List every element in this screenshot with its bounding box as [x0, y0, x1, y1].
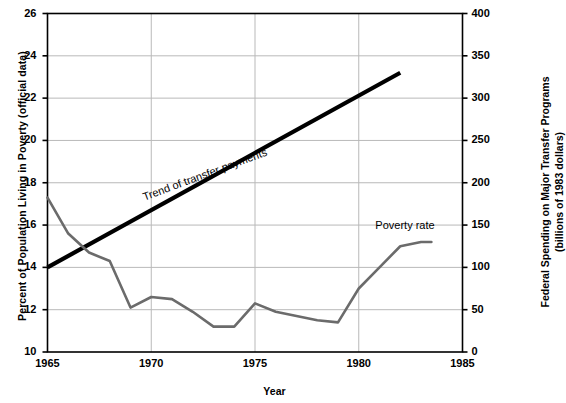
y-axis-right-tick-label: 200: [472, 176, 506, 188]
y-axis-right-tick-label: 50: [472, 303, 506, 315]
y-axis-left-tick-label: 16: [9, 218, 37, 230]
y-axis-right-tick-label: 300: [472, 91, 506, 103]
x-axis-tick-label: 1975: [233, 357, 277, 369]
y-axis-left-tick-label: 26: [9, 7, 37, 19]
x-axis-tick-label: 1985: [441, 357, 485, 369]
y-axis-right-title-line2: (billions of 1983 dollars): [552, 22, 566, 362]
x-axis-title: Year: [0, 385, 549, 397]
y-axis-right-tick-label: 100: [472, 260, 506, 272]
y-axis-right-title: Federal Spending on Major Transfer Progr…: [538, 22, 566, 362]
poverty-rate-line: [48, 198, 432, 327]
y-axis-right-tick-label: 0: [472, 345, 506, 357]
y-axis-right-tick-label: 350: [472, 49, 506, 61]
y-axis-left-tick-label: 12: [9, 303, 37, 315]
y-axis-left-tick-label: 18: [9, 176, 37, 188]
y-axis-left-tick-label: 20: [9, 133, 37, 145]
x-axis-tick-label: 1970: [129, 357, 173, 369]
y-axis-left-tick-label: 10: [9, 345, 37, 357]
y-axis-right-tick-label: 400: [472, 7, 506, 19]
y-axis-right-tick-label: 150: [472, 218, 506, 230]
y-axis-right-tick-label: 250: [472, 133, 506, 145]
x-axis-tick-label: 1965: [26, 357, 70, 369]
y-axis-right-title-line1: Federal Spending on Major Transfer Progr…: [538, 22, 552, 362]
y-axis-left-tick-label: 24: [9, 49, 37, 61]
y-axis-left-tick-label: 14: [9, 260, 37, 272]
y-axis-left-tick-label: 22: [9, 91, 37, 103]
x-axis-tick-label: 1980: [337, 357, 381, 369]
poverty-rate-label: Poverty rate: [375, 219, 434, 231]
